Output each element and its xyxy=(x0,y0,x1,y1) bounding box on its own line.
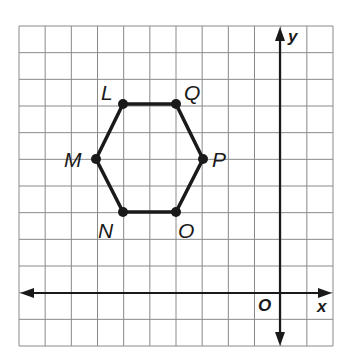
vertex-Q xyxy=(171,99,181,109)
y-axis-up-arrow-icon xyxy=(275,27,285,41)
vertex-P xyxy=(198,154,208,164)
vertex-N xyxy=(118,207,128,217)
label-P: P xyxy=(212,148,226,171)
label-O: O xyxy=(178,219,194,242)
x-axis-left-arrow-icon xyxy=(20,288,34,298)
label-Q: Q xyxy=(184,81,200,104)
y-axis-label: y xyxy=(287,27,299,46)
label-N: N xyxy=(98,219,114,242)
vertex-L xyxy=(118,99,128,109)
coordinate-plane: y x O L Q P O N M xyxy=(0,0,355,357)
vertex-M xyxy=(91,154,101,164)
grid-lines xyxy=(19,26,333,346)
vertex-O xyxy=(171,207,181,217)
origin-label: O xyxy=(258,296,271,315)
label-L: L xyxy=(101,81,113,104)
x-axis-label: x xyxy=(316,297,328,316)
label-M: M xyxy=(64,148,82,171)
y-axis-down-arrow-icon xyxy=(275,332,285,346)
